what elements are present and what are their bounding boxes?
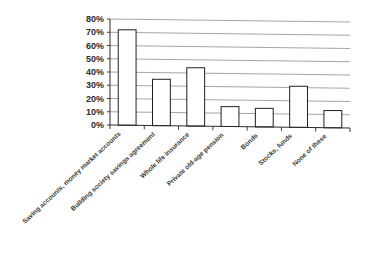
gridline xyxy=(110,19,350,22)
bar xyxy=(187,68,205,126)
bars-group xyxy=(118,30,342,128)
chart-canvas: 0%10%20%30%40%50%60%70%80% Saving accoun… xyxy=(0,0,366,260)
gridline xyxy=(110,72,350,75)
y-axis-tick-label: 60% xyxy=(86,41,104,51)
y-axis-tick-label: 50% xyxy=(86,54,104,64)
x-axis-category-label: Bonds xyxy=(239,131,259,150)
gridline xyxy=(110,99,350,102)
x-axis-category-label: Private old-age pension xyxy=(166,131,226,188)
y-axis-tick-label: 0% xyxy=(91,120,104,130)
bar-chart-figure: 0%10%20%30%40%50%60%70%80% Saving accoun… xyxy=(0,0,366,260)
bar xyxy=(255,108,273,127)
bar xyxy=(221,107,239,127)
x-axis-category-label: None of these xyxy=(291,132,328,167)
gridline xyxy=(110,32,350,35)
y-axis-tick-label: 40% xyxy=(86,67,104,77)
bar xyxy=(118,30,136,125)
gridline xyxy=(110,46,350,49)
gridlines-group xyxy=(110,19,350,115)
x-axis-category-label: Stocks, funds xyxy=(257,132,294,168)
y-axis-tick-label: 80% xyxy=(86,14,104,24)
plot-area: 0%10%20%30%40%50%60%70%80% Saving accoun… xyxy=(0,0,366,260)
gridline xyxy=(110,59,350,62)
y-axis-ticks-group: 0%10%20%30%40%50%60%70%80% xyxy=(86,14,110,130)
bar xyxy=(290,86,308,127)
bar xyxy=(324,111,342,128)
y-axis-tick-label: 70% xyxy=(86,27,104,37)
gridline xyxy=(110,85,350,88)
y-axis-tick-label: 20% xyxy=(86,94,104,104)
bar xyxy=(153,79,171,125)
y-axis-tick-label: 30% xyxy=(86,80,104,90)
x-axis-category-labels-group: Saving accounts, money market accountsBu… xyxy=(21,130,328,226)
y-axis-tick-label: 10% xyxy=(86,107,104,117)
